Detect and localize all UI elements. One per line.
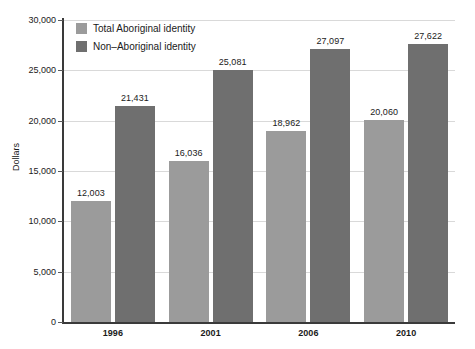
y-axis-tick-label: 15,000 <box>0 166 56 176</box>
bar[interactable] <box>266 131 306 322</box>
bar-value-label: 21,431 <box>121 93 149 103</box>
y-axis-tick-mark <box>58 20 63 21</box>
x-axis-tick-label: 2001 <box>201 328 221 338</box>
bar[interactable] <box>408 44 448 322</box>
y-axis-tick-mark <box>58 70 63 71</box>
y-axis-title: Dollars <box>11 127 21 187</box>
legend-item-total-aboriginal-identity[interactable]: Total Aboriginal identity <box>76 20 196 37</box>
bar-value-label: 12,003 <box>77 188 105 198</box>
x-axis-tick-label: 2006 <box>298 328 318 338</box>
y-axis-tick-mark <box>58 121 63 122</box>
x-axis-line <box>62 322 455 324</box>
bar-value-label: 16,036 <box>175 148 203 158</box>
gridline <box>64 70 455 71</box>
bar-chart: Dollars Total Aboriginal identity Non–Ab… <box>0 0 475 349</box>
y-axis-tick-mark <box>58 272 63 273</box>
bar[interactable] <box>169 161 209 322</box>
y-axis-tick-label: 30,000 <box>0 15 56 25</box>
chart-legend: Total Aboriginal identity Non–Aboriginal… <box>76 20 196 56</box>
x-axis-tick-label: 1996 <box>103 328 123 338</box>
bar[interactable] <box>213 70 253 322</box>
legend-swatch-icon <box>76 41 87 52</box>
y-axis-tick-label: 0 <box>0 317 56 327</box>
bar[interactable] <box>364 120 404 322</box>
x-axis-tick-label: 2010 <box>396 328 416 338</box>
bar-value-label: 18,962 <box>273 118 301 128</box>
y-axis-tick-mark <box>58 171 63 172</box>
bar[interactable] <box>71 201 111 322</box>
plot-area <box>64 20 455 322</box>
bar-value-label: 25,081 <box>219 57 247 67</box>
legend-item-label: Total Aboriginal identity <box>93 23 195 34</box>
y-axis-tick-mark <box>58 221 63 222</box>
bar-value-label: 27,622 <box>414 31 442 41</box>
y-axis-tick-mark <box>58 322 63 323</box>
y-axis-tick-label: 20,000 <box>0 116 56 126</box>
bar-value-label: 27,097 <box>317 36 345 46</box>
bar[interactable] <box>115 106 155 322</box>
bar-value-label: 20,060 <box>370 107 398 117</box>
legend-item-non-aboriginal-identity[interactable]: Non–Aboriginal identity <box>76 38 196 55</box>
y-axis-tick-label: 10,000 <box>0 216 56 226</box>
bar[interactable] <box>310 49 350 322</box>
y-axis-tick-label: 5,000 <box>0 267 56 277</box>
legend-swatch-icon <box>76 23 87 34</box>
y-axis-tick-label: 25,000 <box>0 65 56 75</box>
legend-item-label: Non–Aboriginal identity <box>93 41 196 52</box>
